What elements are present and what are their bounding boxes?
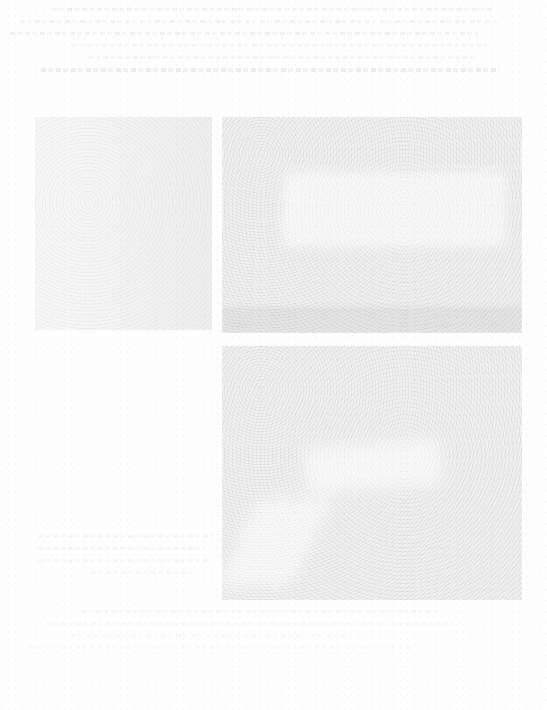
header-text-block: [10, 8, 530, 81]
faded-photo: [35, 117, 212, 330]
header-text-line: [72, 44, 488, 47]
figure-top-right-plate: [222, 117, 522, 333]
figure-left-plate: [35, 117, 212, 330]
figure-bottom-right-plate: [222, 346, 522, 600]
header-text-line: [20, 20, 498, 23]
caption-line: [38, 535, 213, 538]
footer-text-line: [81, 610, 438, 613]
header-text-line: [41, 68, 499, 72]
header-text-line: [10, 32, 478, 35]
header-text-line: [88, 56, 478, 59]
faded-photo: [222, 346, 522, 600]
caption-line: [38, 559, 210, 562]
caption-line: [38, 547, 204, 550]
footer-text-line: [46, 622, 454, 625]
caption-line: [91, 571, 196, 574]
faded-photo: [222, 117, 522, 333]
header-text-line: [52, 8, 494, 11]
footer-text-line: [30, 646, 413, 649]
footer-text-line: [71, 634, 352, 637]
footer-text-block: [20, 610, 530, 658]
scanned-page: [0, 0, 547, 710]
figure-caption: [38, 535, 213, 583]
